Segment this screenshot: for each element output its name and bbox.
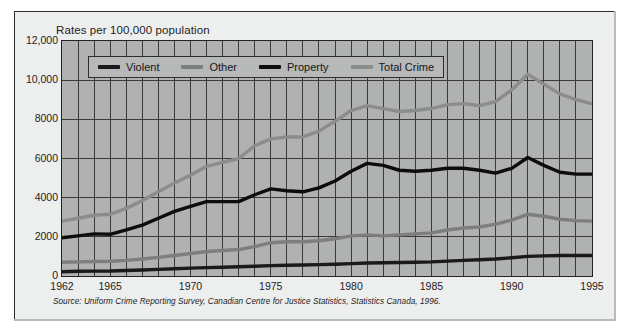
x-axis-tick-label: 1990 xyxy=(500,280,523,292)
x-axis-tick-label: 1985 xyxy=(420,280,443,292)
legend-label: Violent xyxy=(126,61,159,73)
source-note: Source: Uniform Crime Reporting Survey, … xyxy=(53,297,441,306)
legend-item: Total Crime xyxy=(351,61,435,73)
y-axis-tick-label: 10,000 xyxy=(10,73,58,85)
data-lines xyxy=(62,74,592,271)
series-line-total-crime xyxy=(62,74,592,221)
chart-title: Rates per 100,000 population xyxy=(56,24,210,36)
x-axis-tick-label: 1965 xyxy=(98,280,121,292)
y-axis-tick-label: 2000 xyxy=(10,230,58,242)
x-axis-tick-label: 1995 xyxy=(580,280,603,292)
x-axis-tick-label: 1975 xyxy=(259,280,282,292)
legend-swatch-icon xyxy=(181,65,203,69)
legend-swatch-icon xyxy=(259,65,281,69)
y-axis-tick-label: 4000 xyxy=(10,191,58,203)
y-axis-tick-label: 6000 xyxy=(10,152,58,164)
legend-label: Property xyxy=(287,61,329,73)
legend-item: Other xyxy=(181,61,237,73)
series-line-other xyxy=(62,214,592,262)
legend-swatch-icon xyxy=(351,65,373,69)
x-axis-tick-label: 1980 xyxy=(339,280,362,292)
y-axis-tick-label: 12,000 xyxy=(10,34,58,46)
x-axis-tick-label: 1970 xyxy=(179,280,202,292)
legend-item: Violent xyxy=(98,61,159,73)
legend-label: Total Crime xyxy=(379,61,435,73)
legend-label: Other xyxy=(209,61,237,73)
legend-item: Property xyxy=(259,61,329,73)
legend-swatch-icon xyxy=(98,65,120,69)
y-axis: 0200040006000800010,00012,000 xyxy=(8,40,58,277)
y-axis-tick-label: 8000 xyxy=(10,112,58,124)
chart-legend: ViolentOtherPropertyTotal Crime xyxy=(88,56,444,78)
x-axis: 19621965197019751980198519901995 xyxy=(61,280,593,296)
x-axis-tick-label: 1962 xyxy=(50,280,73,292)
crime-rates-figure: Rates per 100,000 population 02000400060… xyxy=(0,0,630,333)
